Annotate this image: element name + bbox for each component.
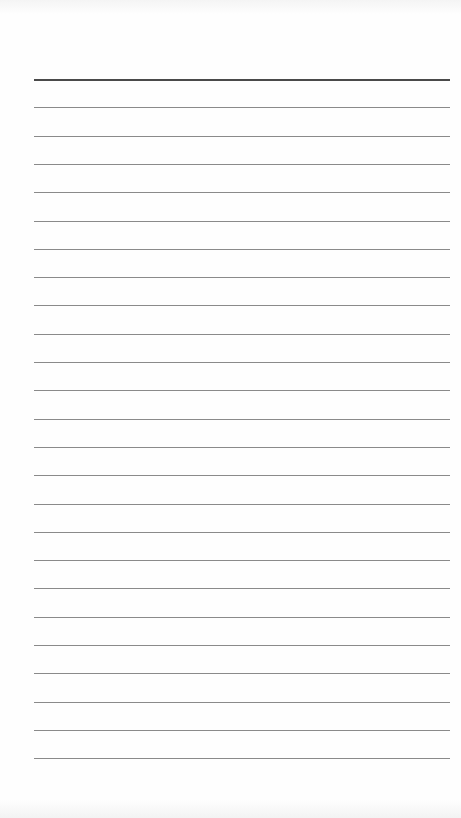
rule-line bbox=[34, 673, 450, 674]
ruled-lines bbox=[0, 0, 461, 818]
rule-line bbox=[34, 362, 450, 363]
rule-line bbox=[34, 192, 450, 193]
rule-line bbox=[34, 390, 450, 391]
rule-line bbox=[34, 758, 450, 759]
rule-line bbox=[34, 277, 450, 278]
rule-line bbox=[34, 475, 450, 476]
rule-line bbox=[34, 702, 450, 703]
rule-line bbox=[34, 334, 450, 335]
rule-line bbox=[34, 164, 450, 165]
rule-line bbox=[34, 447, 450, 448]
rule-line bbox=[34, 617, 450, 618]
lined-paper-page bbox=[0, 0, 461, 818]
header-rule-line bbox=[34, 79, 450, 81]
rule-line bbox=[34, 645, 450, 646]
rule-line bbox=[34, 532, 450, 533]
rule-line bbox=[34, 221, 450, 222]
rule-line bbox=[34, 249, 450, 250]
rule-line bbox=[34, 305, 450, 306]
bottom-edge-shadow bbox=[0, 800, 461, 818]
rule-line bbox=[34, 107, 450, 108]
rule-line bbox=[34, 136, 450, 137]
rule-line bbox=[34, 588, 450, 589]
rule-line bbox=[34, 504, 450, 505]
rule-line bbox=[34, 730, 450, 731]
rule-line bbox=[34, 419, 450, 420]
rule-line bbox=[34, 560, 450, 561]
